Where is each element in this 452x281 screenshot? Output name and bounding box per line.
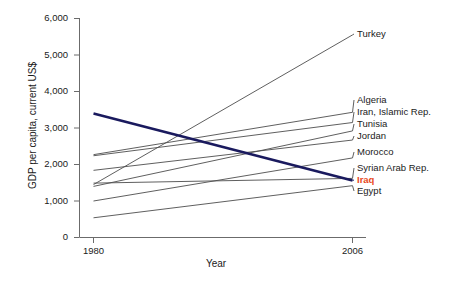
- label-leader-line: [353, 168, 355, 178]
- y-tick-label-3000: 3,000: [18, 123, 68, 133]
- series-line: [94, 140, 353, 170]
- label-leader-line: [353, 152, 355, 158]
- y-tick-label-5000: 5,000: [18, 50, 68, 60]
- series-label-jordan: Jordan: [357, 131, 386, 141]
- x-axis-ticks: [94, 238, 353, 244]
- label-leader-line: [353, 112, 355, 123]
- series-label-morocco: Morocco: [357, 147, 393, 157]
- label-leader-lines: [353, 34, 355, 191]
- label-leader-line: [353, 136, 355, 140]
- x-tick-label-1980: 1980: [68, 246, 119, 256]
- label-leader-line: [353, 34, 355, 35]
- y-tick-label-1000: 1,000: [18, 196, 68, 206]
- series-label-tunisia: Tunisia: [357, 119, 387, 129]
- label-leader-line: [353, 186, 355, 191]
- axis-lines: [80, 18, 367, 238]
- series-label-turkey: Turkey: [357, 29, 386, 39]
- label-leader-line: [353, 124, 355, 131]
- y-tick-label-0: 0: [18, 232, 68, 242]
- series-line: [94, 35, 353, 185]
- series-lines: [94, 35, 353, 218]
- series-label-egypt: Egypt: [357, 186, 381, 196]
- series-label-algeria: Algeria: [357, 95, 387, 105]
- series-line: [94, 186, 353, 218]
- x-tick-label-2006: 2006: [327, 246, 378, 256]
- y-axis-title: GDP per capita, current US$: [27, 51, 38, 201]
- series-line: [94, 113, 353, 180]
- series-label-syrian-arab-rep: Syrian Arab Rep.: [357, 163, 429, 173]
- series-label-iraq: Iraq: [357, 175, 374, 185]
- y-tick-label-2000: 2,000: [18, 159, 68, 169]
- series-label-iran-islamic-rep: Iran, Islamic Rep.: [357, 107, 431, 117]
- y-tick-label-6000: 6,000: [18, 13, 68, 23]
- x-axis-title: Year: [79, 258, 353, 269]
- label-leader-line: [353, 100, 355, 112]
- gdp-per-capita-line-chart: 6,000 5,000 4,000 3,000 2,000 1,000 0 19…: [0, 0, 452, 281]
- label-leader-line: [353, 180, 355, 181]
- y-axis-ticks: [74, 19, 80, 238]
- y-tick-label-4000: 4,000: [18, 86, 68, 96]
